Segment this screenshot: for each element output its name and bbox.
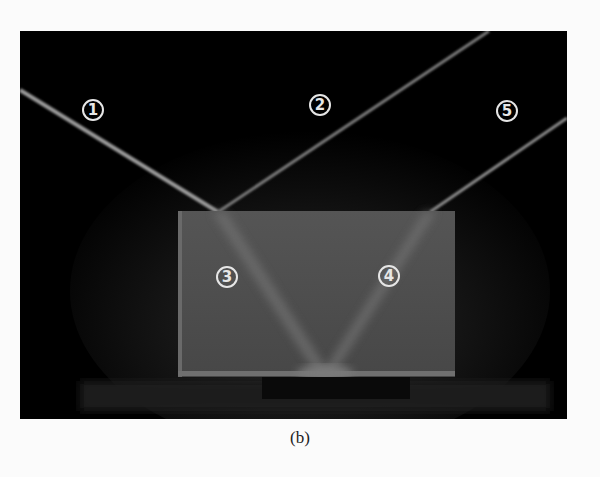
glass-block-left-edge	[178, 211, 182, 377]
ray-label-2: 2	[309, 94, 331, 116]
ray-label-5: 5	[496, 100, 518, 122]
ray-label-1-text: 1	[88, 103, 98, 118]
ray-label-3-text: 3	[222, 270, 232, 285]
ray-label-4: 4	[378, 265, 400, 287]
block-stand	[262, 377, 410, 399]
figure: 1 2 3 4 5 (b)	[0, 0, 600, 477]
ray-label-1: 1	[82, 99, 104, 121]
ray-label-3: 3	[216, 266, 238, 288]
ray-label-4-text: 4	[384, 269, 394, 284]
refraction-scene	[20, 31, 567, 419]
ray-label-2-text: 2	[315, 98, 325, 113]
refraction-photo: 1 2 3 4 5	[20, 31, 567, 419]
ray-label-5-text: 5	[502, 104, 512, 119]
figure-caption: (b)	[0, 428, 600, 448]
